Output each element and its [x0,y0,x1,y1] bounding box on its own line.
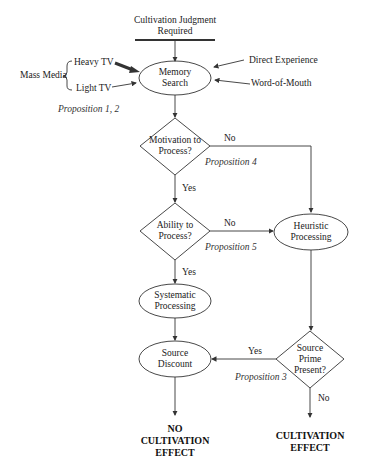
ability-line1: Ability to [157,220,194,231]
source-prime-text: Source Prime Present? [294,343,326,376]
heuristic-text: Heuristic Processing [290,221,331,243]
no-cultivation-effect-outcome: NO CULTIVATION EFFECT [141,423,210,459]
proposition-3: Proposition 3 [235,372,287,383]
ability-no-label: No [224,218,236,229]
systematic-line1: Systematic [154,290,196,301]
prime-yes-label: Yes [248,346,262,357]
source-prime-line3: Present? [294,365,326,376]
systematic-line2: Processing [154,301,196,312]
source-prime-line2: Prime [294,354,326,365]
motivation-no-label: No [224,133,236,144]
heavy-tv-label: Heavy TV [74,57,114,68]
heuristic-line1: Heuristic [290,221,331,232]
motivation-line1: Motivation to [149,135,201,146]
no-effect-line2: CULTIVATION [141,435,210,447]
source-discount-line1: Source [158,348,192,359]
start-label: Cultivation Judgment Required [134,15,216,37]
effect-line2: EFFECT [276,442,345,454]
proposition-5: Proposition 5 [205,242,257,253]
memory-search-text: Memory Search [159,67,192,89]
direct-experience-label: Direct Experience [249,55,318,66]
effect-line1: CULTIVATION [276,430,345,442]
proposition-4: Proposition 4 [205,157,257,168]
word-of-mouth-label: Word-of-Mouth [251,78,311,89]
start-label-line1: Cultivation Judgment [134,15,216,26]
proposition-1-2: Proposition 1, 2 [58,104,119,115]
motivation-line2: Process? [149,146,201,157]
systematic-text: Systematic Processing [154,290,196,312]
no-effect-line3: EFFECT [141,447,210,459]
source-prime-line1: Source [294,343,326,354]
prime-no-label: No [318,393,330,404]
ability-text: Ability to Process? [157,220,194,242]
flowchart-canvas: Cultivation Judgment Required Mass Media… [0,0,365,463]
motivation-text: Motivation to Process? [149,135,201,157]
cultivation-effect-outcome: CULTIVATION EFFECT [276,430,345,454]
heuristic-line2: Processing [290,232,331,243]
mass-media-label: Mass Media [20,70,67,81]
no-effect-line1: NO [141,423,210,435]
source-discount-line2: Discount [158,359,192,370]
start-label-line2: Required [134,26,216,37]
source-discount-text: Source Discount [158,348,192,370]
ability-yes-label: Yes [182,267,196,278]
memory-search-line1: Memory [159,67,192,78]
ability-line2: Process? [157,231,194,242]
memory-search-line2: Search [159,78,192,89]
motivation-yes-label: Yes [182,183,196,194]
light-tv-label: Light TV [76,83,111,94]
